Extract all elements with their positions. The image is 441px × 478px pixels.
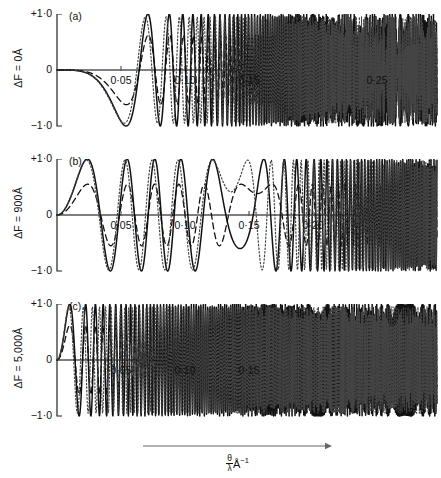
y-axis-label: ΔF = 5,000Å: [12, 303, 24, 413]
x-tick-label: 0·05: [99, 364, 143, 376]
x-tick-label: 0·10: [163, 219, 207, 231]
x-tick-label: 0·25: [355, 74, 399, 86]
y-axis-label: ΔF = 0Å: [12, 13, 24, 123]
x-tick-label: 0·15: [227, 364, 271, 376]
x-tick-label: 0·10: [163, 364, 207, 376]
panel-tag: (a): [69, 10, 82, 22]
x-tick-label: 0·05: [99, 74, 143, 86]
fraction-denominator: λ: [226, 464, 233, 473]
x-tick-label: 0·20: [291, 219, 335, 231]
panel-plot-area: [0, 14, 441, 130]
panel-plot-area: [0, 159, 441, 275]
x-tick-label: 0·05: [99, 219, 143, 231]
y-axis-label: ΔF = 900Å: [12, 158, 24, 268]
x-tick-label: 0·10: [163, 74, 207, 86]
panel-defocus-900: +1·00−1·00·050·100·150·20(b)ΔF = 900Å: [0, 159, 441, 317]
x-tick-label: 0·15: [227, 74, 271, 86]
panel-tag: (c): [69, 300, 81, 312]
panel-tag: (b): [69, 155, 82, 167]
ctf-figure: +1·00−1·00·050·100·150·25(a)ΔF = 0Å +1·0…: [0, 0, 441, 478]
panel-defocus-0: +1·00−1·00·050·100·150·25(a)ΔF = 0Å: [0, 14, 441, 172]
theta-over-lambda-fraction: θλ: [226, 454, 233, 472]
unit-exponent: −1: [240, 456, 249, 465]
arrow-head: [325, 443, 332, 449]
x-axis-caption: θλÅ−1: [188, 454, 288, 472]
panel-plot-area: [0, 304, 441, 420]
x-tick-label: 0·15: [227, 219, 271, 231]
